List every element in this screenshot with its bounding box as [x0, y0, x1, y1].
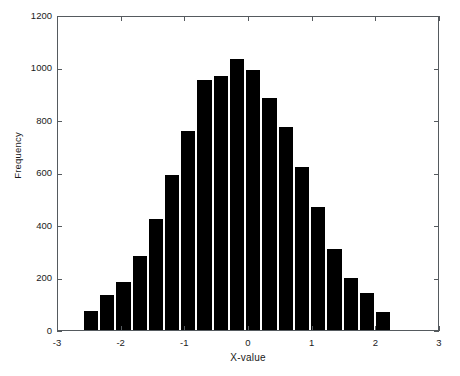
y-axis-tick-mark-right: [434, 121, 439, 122]
histogram-bar: [229, 59, 245, 330]
y-axis-tick-mark: [57, 174, 62, 175]
x-axis-tick-mark-top: [248, 16, 249, 21]
x-axis-tick-label: -3: [42, 337, 72, 348]
x-axis-tick-mark-top: [375, 16, 376, 21]
x-axis-tick-mark-top: [121, 16, 122, 21]
x-axis-tick-label: -2: [106, 337, 136, 348]
x-axis-tick-mark-top: [57, 16, 58, 21]
histogram-bar: [99, 295, 115, 330]
histogram-bar: [343, 278, 359, 330]
bars-layer: [58, 17, 438, 330]
y-axis-tick-label: 1200: [8, 10, 52, 21]
y-axis-tick-mark: [57, 121, 62, 122]
x-axis-title: X-value: [57, 352, 439, 363]
x-axis-tick-mark: [57, 326, 58, 331]
y-axis-tick-mark: [57, 331, 62, 332]
histogram-bar: [148, 219, 164, 330]
histogram-bar: [83, 311, 99, 330]
x-axis-tick-label: 0: [233, 337, 263, 348]
y-axis-tick-mark: [57, 226, 62, 227]
histogram-bar: [375, 312, 391, 330]
y-axis-tick-mark: [57, 69, 62, 70]
y-axis-tick-mark-right: [434, 226, 439, 227]
y-axis-tick-label: 0: [8, 325, 52, 336]
x-axis-tick-mark: [439, 326, 440, 331]
histogram-bar: [359, 293, 375, 330]
x-axis-tick-mark-top: [184, 16, 185, 21]
x-axis-tick-label: 3: [424, 337, 454, 348]
y-axis-tick-mark: [57, 279, 62, 280]
x-axis-tick-label: -1: [169, 337, 199, 348]
x-axis-tick-mark: [121, 326, 122, 331]
y-axis-tick-label: 400: [8, 220, 52, 231]
y-axis-tick-mark-right: [434, 69, 439, 70]
x-axis-tick-label: 2: [360, 337, 390, 348]
histogram-bar: [326, 249, 342, 330]
x-axis-tick-mark: [375, 326, 376, 331]
histogram-bar: [132, 256, 148, 330]
histogram-bar: [310, 207, 326, 330]
x-axis-tick-mark-top: [439, 16, 440, 21]
histogram-bar: [196, 80, 212, 330]
plot-area: [57, 16, 439, 331]
x-axis-tick-mark: [248, 326, 249, 331]
histogram-bar: [245, 70, 261, 330]
histogram-bar: [213, 76, 229, 330]
y-axis-tick-label: 1000: [8, 62, 52, 73]
x-axis-tick-label: 1: [297, 337, 327, 348]
histogram-bar: [164, 175, 180, 330]
y-axis-tick-mark-right: [434, 279, 439, 280]
x-axis-tick-mark-top: [312, 16, 313, 21]
y-axis-tick-mark-right: [434, 174, 439, 175]
x-axis-tick-mark: [312, 326, 313, 331]
histogram-bar: [294, 167, 310, 330]
histogram-bar: [278, 127, 294, 330]
y-axis-title: Frequency: [12, 101, 23, 211]
x-axis-tick-mark: [184, 326, 185, 331]
y-axis-tick-mark-right: [434, 331, 439, 332]
y-axis-tick-label: 200: [8, 272, 52, 283]
histogram-bar: [115, 282, 131, 330]
histogram-bar: [180, 131, 196, 330]
histogram-bar: [261, 98, 277, 330]
histogram-figure: 020040060080010001200 Frequency -3-2-101…: [0, 0, 460, 376]
